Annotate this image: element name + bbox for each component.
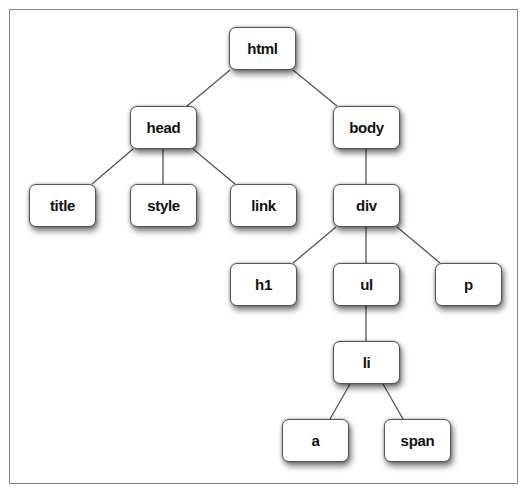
node-h1: h1 <box>230 263 297 306</box>
node-link: link <box>230 184 297 227</box>
node-p: p <box>435 263 502 306</box>
edge-div-p <box>397 227 440 263</box>
edge-li-span <box>383 384 403 419</box>
node-a: a <box>282 419 349 462</box>
edge-html-body <box>293 70 337 106</box>
node-html: html <box>229 27 296 70</box>
node-head: head <box>130 106 197 149</box>
node-ul: ul <box>333 263 400 306</box>
node-body: body <box>333 106 400 149</box>
edge-html-head <box>187 70 230 106</box>
node-div: div <box>333 184 400 227</box>
tree-edges <box>0 0 531 495</box>
edge-li-a <box>330 384 350 419</box>
edge-div-h1 <box>293 227 336 263</box>
node-title: title <box>29 184 96 227</box>
edge-head-link <box>193 149 235 184</box>
node-li: li <box>333 341 400 384</box>
node-style: style <box>130 184 197 227</box>
edge-head-title <box>92 149 133 184</box>
node-span: span <box>384 419 451 462</box>
